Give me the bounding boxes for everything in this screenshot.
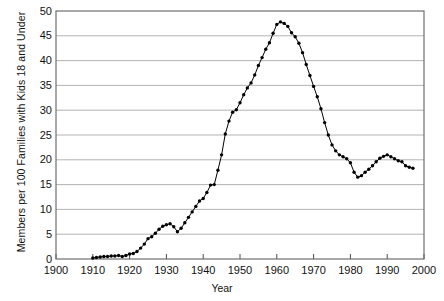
chart-figure: 05101520253035404550 1900191019201930194… (0, 0, 444, 301)
x-axis-ticklabels: 1900191019201930194019501960197019801990… (0, 0, 444, 301)
x-tick-label: 2000 (402, 264, 444, 276)
y-axis-title: Members per 100 Families with Kids 18 an… (15, 1, 27, 263)
x-axis-title: Year (0, 282, 444, 294)
